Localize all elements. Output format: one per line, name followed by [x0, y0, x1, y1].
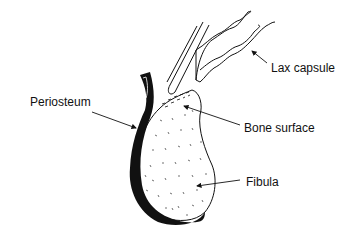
- periosteum-arrow: [92, 112, 136, 128]
- fibula-label: Fibula: [246, 176, 279, 188]
- lax-capsule-label: Lax capsule: [271, 62, 335, 74]
- bone-surface-label: Bone surface: [244, 122, 315, 134]
- fibula-diagram: [0, 0, 363, 238]
- lax-capsule-arrow: [252, 51, 267, 63]
- periosteum-label: Periosteum: [30, 96, 91, 108]
- forceps-shape: [167, 22, 209, 94]
- lax-capsule-shape: [196, 11, 275, 82]
